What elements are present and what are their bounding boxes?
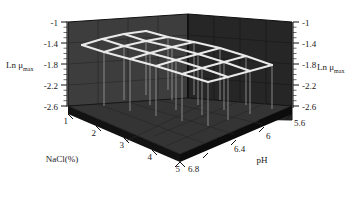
z-axis-label-right-text: Ln μ <box>317 62 334 72</box>
y-tick-3: 6.8 <box>188 164 200 174</box>
z-tick-right-3: -2.2 <box>302 81 316 91</box>
y-tick-0: 5.6 <box>294 118 306 128</box>
x-tick-0: 1 <box>64 116 69 126</box>
z-tick-left-4: -2.6 <box>44 102 59 112</box>
x-tick-1: 2 <box>92 128 97 138</box>
y-axis-label: pH <box>257 155 269 165</box>
z-axis-label-left-text: Ln μ <box>6 60 23 70</box>
z-tick-left-1: -1.4 <box>44 39 59 49</box>
x-axis-label: NaCl(%) <box>46 154 79 164</box>
z-tick-right-1: -1.4 <box>302 39 317 49</box>
surface-plot-figure: -1 -1.4 -1.8 -2.2 -2.6 Ln μmax -1 -1.4 -… <box>0 0 360 210</box>
y-tick-1: 6 <box>266 131 271 141</box>
x-tick-3: 4 <box>148 152 153 162</box>
z-tick-left-0: -1 <box>51 18 59 28</box>
z-tick-right-2: -1.8 <box>302 60 317 70</box>
z-tick-left-2: -1.8 <box>44 60 59 70</box>
z-axis-label-right-sub: max <box>334 68 344 74</box>
x-tick-2: 3 <box>120 140 125 150</box>
z-axis-label-left-sub: max <box>23 66 33 72</box>
z-tick-left-3: -2.2 <box>44 81 58 91</box>
z-tick-right-0: -1 <box>302 18 310 28</box>
z-tick-right-4: -2.6 <box>302 102 317 112</box>
y-tick-2: 6.4 <box>234 144 246 154</box>
